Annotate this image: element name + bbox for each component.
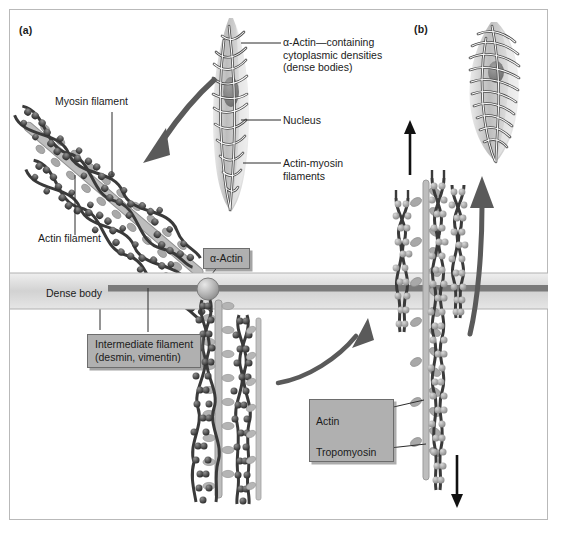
relaxed-cell-drawing <box>213 18 249 212</box>
label-line-1: α-Actin—containing <box>283 36 374 48</box>
label-line-1: Actin-myosin <box>283 157 343 169</box>
actin-helix-b-left <box>393 190 413 332</box>
nucleus-label: Nucleus <box>283 114 321 127</box>
label-line-3: (dense bodies) <box>283 61 352 73</box>
callout-line-2: (desmin, vimentin) <box>95 351 181 363</box>
contraction-arrow-up <box>404 120 416 175</box>
arrow-to-panel-b <box>278 318 374 383</box>
label-line-2: filaments <box>283 170 325 182</box>
panel-tag-a: (a) <box>19 24 32 36</box>
callout-line-1: Intermediate filament <box>95 338 193 350</box>
curved-arrow-to-contracted-cell <box>470 176 494 334</box>
dense-body-label: Dense body <box>46 287 102 300</box>
vertical-filaments-relaxed <box>191 300 262 505</box>
contracted-cell-drawing <box>469 22 519 162</box>
zoom-arrow-relaxed <box>143 80 214 163</box>
figure-artwork <box>0 0 566 538</box>
alpha-actin-callout[interactable]: α-Actin <box>203 248 250 269</box>
label-line-2: cytoplasmic densities <box>283 49 382 61</box>
intermediate-filament-callout[interactable]: Intermediate filament (desmin, vimentin) <box>87 334 201 368</box>
alpha-actin-containing-cytoplasmic-densities-label: α-Actin—containing cytoplasmic densities… <box>283 36 382 74</box>
panel-tag-b: (b) <box>414 23 428 35</box>
myosin-filament-label: Myosin filament <box>55 95 128 108</box>
alpha-actin-body <box>197 278 219 300</box>
actin-filament-label: Actin filament <box>38 232 101 245</box>
actin-myosin-filaments-label: Actin-myosin filaments <box>283 157 343 182</box>
contraction-arrow-down <box>451 455 463 508</box>
tropomyosin-key-label: Tropomyosin <box>316 446 376 458</box>
filaments-panel-b <box>393 170 469 490</box>
figure-smooth-muscle-contraction: (a) (b) α-Actin—containing cytoplasmic d… <box>0 0 566 538</box>
actin-key-label: Actin <box>316 415 339 427</box>
